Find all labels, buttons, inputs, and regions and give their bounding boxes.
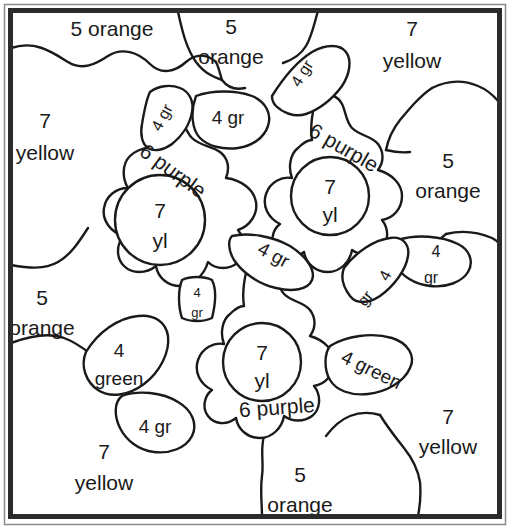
label-bg-top-left: 5 orange bbox=[71, 17, 154, 40]
label-bg-bottom-left-number: 7 bbox=[98, 440, 110, 463]
label-leaf-left-green-color: green bbox=[95, 368, 144, 389]
label-bg-left-upper-color: yellow bbox=[16, 141, 75, 164]
label-flower-right-center-number: 7 bbox=[324, 175, 336, 198]
label-flower-left-center-number: 7 bbox=[154, 199, 166, 222]
label-bg-bottom-left-color: yellow bbox=[75, 471, 134, 494]
label-leaf-right-lower-number: 4 bbox=[432, 243, 441, 260]
label-bg-top-mid-color: orange bbox=[198, 45, 263, 68]
label-leaf-small-left-color: gr bbox=[191, 305, 203, 320]
label-bg-top-right-color: yellow bbox=[383, 49, 442, 72]
label-bg-top-mid-number: 5 bbox=[225, 15, 237, 38]
label-flower-left-center-color: yl bbox=[152, 229, 167, 252]
label-bg-left-lower-number: 5 bbox=[36, 286, 48, 309]
label-bg-bottom-mid-number: 5 bbox=[294, 463, 306, 486]
label-leaf-small-left-number: 4 bbox=[193, 285, 200, 300]
coloring-artboard: 5 orange 5 orange 7 yellow 7 yellow 5 or… bbox=[0, 0, 510, 531]
label-bg-right-mid-color: orange bbox=[415, 179, 480, 202]
label-bg-left-upper-number: 7 bbox=[39, 109, 51, 132]
worksheet-page: 5 orange 5 orange 7 yellow 7 yellow 5 or… bbox=[0, 0, 510, 531]
label-flower-bottom-center-color: yl bbox=[254, 369, 269, 392]
label-bg-bottom-mid-color: orange bbox=[267, 493, 332, 516]
label-leaf-right-lower-color: gr bbox=[424, 269, 439, 286]
label-leaf-left-lower: 4 gr bbox=[139, 416, 172, 437]
label-bg-bottom-right-number: 7 bbox=[442, 405, 454, 428]
label-leaf-top-center: 4 gr bbox=[212, 107, 245, 128]
label-leaf-left-green-number: 4 bbox=[114, 340, 125, 361]
label-bg-top-right-number: 7 bbox=[406, 17, 418, 40]
label-bg-bottom-right-color: yellow bbox=[419, 435, 478, 458]
label-bg-left-lower-color: orange bbox=[9, 316, 74, 339]
label-bg-right-mid-number: 5 bbox=[442, 149, 454, 172]
label-flower-right-center-color: yl bbox=[322, 203, 337, 226]
label-flower-bottom-center-number: 7 bbox=[256, 341, 268, 364]
